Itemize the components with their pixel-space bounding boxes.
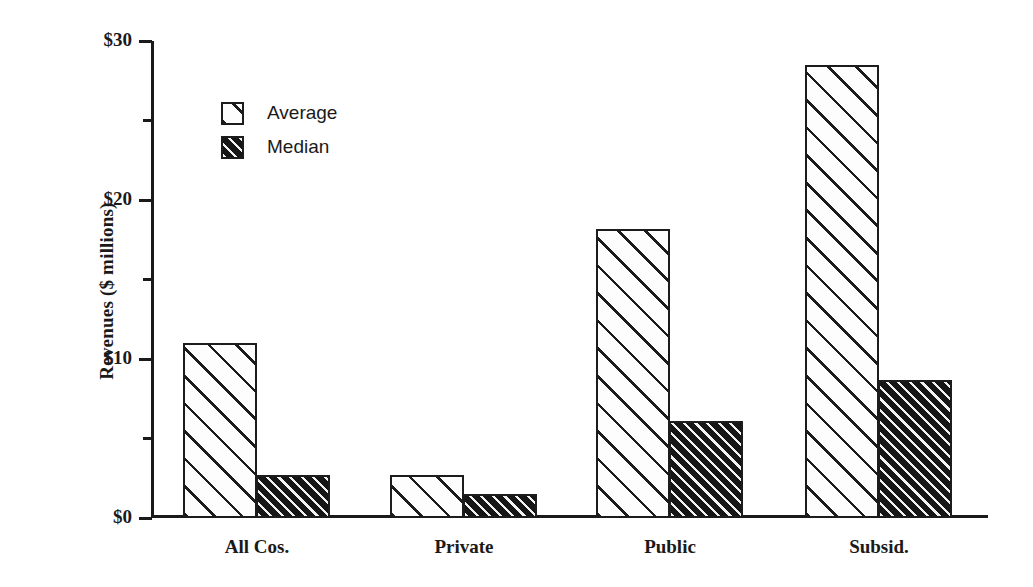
legend-item-median: Median — [221, 133, 337, 161]
y-tick-label-text: $10 — [32, 347, 132, 369]
x-category-label: Private — [350, 536, 578, 558]
bar-public-average — [596, 229, 670, 518]
x-category-label: All Cos. — [143, 536, 371, 558]
legend: Average Median — [221, 99, 337, 167]
bar-subsid-median — [878, 380, 952, 518]
bar-public-median — [669, 421, 743, 518]
x-category-label: Subsid. — [765, 536, 993, 558]
y-tick-label: $30 — [24, 29, 132, 51]
bar-chart: Revenues ($ millions) $0$10$20$30 All Co… — [0, 0, 1033, 587]
x-category-label: Public — [556, 536, 784, 558]
legend-swatch-average-icon — [221, 102, 244, 125]
legend-item-average: Average — [221, 99, 337, 127]
y-tick-label: $0 — [24, 506, 132, 528]
y-tick-label-text: $30 — [32, 29, 132, 51]
y-tick-label-text: $20 — [32, 188, 132, 210]
y-tick-label: $10 — [24, 347, 132, 369]
legend-label-median: Median — [267, 136, 329, 158]
y-axis-title: Revenues ($ millions) — [96, 81, 118, 501]
bar-private-average — [390, 475, 464, 518]
bar-private-median — [463, 494, 537, 518]
bar-subsid-average — [805, 65, 879, 518]
legend-swatch-median-icon — [221, 136, 244, 159]
bar-all-cos-median — [256, 475, 330, 518]
legend-label-average: Average — [267, 102, 337, 124]
y-tick-label: $20 — [24, 188, 132, 210]
bar-all-cos-average — [183, 343, 257, 518]
y-tick-label-text: $0 — [32, 506, 132, 528]
